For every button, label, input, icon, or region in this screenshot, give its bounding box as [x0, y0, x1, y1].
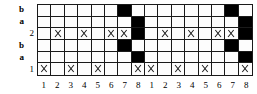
row-label-0: b	[0, 5, 36, 14]
grid-cell-empty	[132, 40, 145, 52]
column-label-0: 1	[37, 79, 51, 93]
column-label-12: 5	[199, 79, 213, 93]
grid-cell-empty	[105, 40, 118, 52]
column-label-5: 6	[105, 79, 119, 93]
grid-cell-empty	[225, 63, 238, 75]
column-label-3: 4	[78, 79, 92, 93]
grid-cell-cross	[212, 28, 225, 40]
column-label-13: 6	[213, 79, 227, 93]
column-label-7: 8	[132, 79, 146, 93]
grid-cell-empty	[199, 5, 212, 17]
cross-icon	[92, 63, 104, 75]
grid-cell-empty	[145, 17, 158, 29]
grid-cell-filled	[118, 40, 131, 52]
grid-cell-cross	[65, 63, 78, 75]
row-label-text: 1	[30, 64, 37, 74]
column-label-1: 2	[51, 79, 65, 93]
grid-cell-empty	[118, 63, 131, 75]
cross-icon	[172, 63, 184, 75]
row-label-1: a	[0, 17, 36, 26]
column-label-4: 5	[91, 79, 105, 93]
cross-icon	[185, 28, 197, 39]
grid-cell-cross	[145, 63, 158, 75]
cross-icon	[239, 63, 252, 75]
row-label-column: ba2ba1	[0, 0, 36, 80]
grid-cell-filled	[225, 5, 238, 17]
grid-cell-filled	[118, 5, 131, 17]
cross-icon	[145, 63, 157, 75]
grid-cell-empty	[92, 28, 105, 40]
grid	[37, 4, 253, 76]
cross-icon	[51, 28, 63, 39]
row-label-5: 1	[0, 65, 36, 74]
grid-cell-empty	[172, 17, 185, 29]
grid-cell-empty	[212, 17, 225, 29]
grid-cell-empty	[158, 63, 171, 75]
grid-cell-empty	[185, 40, 198, 52]
row-label-2: 2	[0, 29, 36, 38]
grid-cell-cross	[185, 28, 198, 40]
cross-icon	[158, 28, 170, 39]
grid-cell-empty	[158, 40, 171, 52]
grid-cell-empty	[145, 52, 158, 64]
grid-cell-filled	[132, 17, 145, 29]
grid-cell-empty	[185, 17, 198, 29]
cross-icon	[105, 28, 117, 39]
grid-cell-cross	[158, 28, 171, 40]
grid-cell-empty	[158, 52, 171, 64]
grid-cell-empty	[78, 17, 91, 29]
column-label-9: 2	[159, 79, 173, 93]
grid-cell-empty	[78, 5, 91, 17]
grid-cell-empty	[65, 5, 78, 17]
grid-cell-empty	[65, 40, 78, 52]
grid-cell-empty	[38, 52, 51, 64]
grid-cell-empty	[65, 28, 78, 40]
grid-cell-empty	[212, 63, 225, 75]
grid-cell-cross	[132, 63, 145, 75]
grid-cell-empty	[51, 17, 64, 29]
grid-cell-empty	[212, 52, 225, 64]
grid-cell-cross	[78, 28, 91, 40]
grid-cell-empty	[92, 17, 105, 29]
grid-cell-cross	[105, 28, 118, 40]
grid-cell-empty	[65, 52, 78, 64]
grid-cell-cross	[172, 63, 185, 75]
cross-icon	[225, 28, 237, 39]
grid-cell-empty	[185, 63, 198, 75]
grid-cell-cross	[118, 28, 131, 40]
row-label-text: a	[20, 52, 37, 62]
grid-cell-empty	[199, 40, 212, 52]
grid-cell-empty	[105, 17, 118, 29]
lattice-grid-figure: ba2ba1 1234567812345678	[0, 0, 257, 94]
row-label-text: a	[20, 16, 37, 26]
grid-cell-empty	[65, 17, 78, 29]
column-label-row: 1234567812345678	[37, 79, 253, 93]
grid-cell-cross	[38, 63, 51, 75]
grid-cell-cross	[92, 63, 105, 75]
grid-cell-filled	[239, 52, 252, 64]
grid-cell-empty	[38, 5, 51, 17]
grid-cell-empty	[172, 28, 185, 40]
grid-cell-cross	[225, 28, 238, 40]
grid-cell-empty	[225, 52, 238, 64]
grid-cell-empty	[38, 28, 51, 40]
grid-cell-cross	[51, 28, 64, 40]
grid-cell-empty	[212, 40, 225, 52]
grid-cell-filled	[239, 17, 252, 29]
grid-cell-empty	[105, 63, 118, 75]
grid-cell-empty	[105, 52, 118, 64]
grid-cell-empty	[199, 52, 212, 64]
grid-cell-cross	[199, 63, 212, 75]
cross-icon	[132, 63, 144, 75]
cross-icon	[78, 28, 90, 39]
grid-cell-empty	[78, 63, 91, 75]
cross-icon	[212, 28, 224, 39]
cross-icon	[38, 63, 50, 75]
grid-cell-empty	[118, 52, 131, 64]
grid-cell-empty	[199, 17, 212, 29]
grid-cell-empty	[158, 17, 171, 29]
grid-cell-empty	[92, 40, 105, 52]
column-label-10: 3	[172, 79, 186, 93]
grid-cell-empty	[172, 40, 185, 52]
column-label-14: 7	[226, 79, 240, 93]
